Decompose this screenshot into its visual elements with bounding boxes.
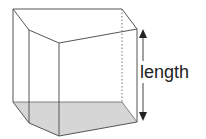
arrow-down-icon <box>139 112 147 121</box>
prism-diagram: length <box>0 0 206 139</box>
length-label: length <box>139 61 190 83</box>
bottom-face <box>13 102 137 136</box>
arrow-up-icon <box>139 29 147 38</box>
top-face-edges <box>13 9 137 43</box>
